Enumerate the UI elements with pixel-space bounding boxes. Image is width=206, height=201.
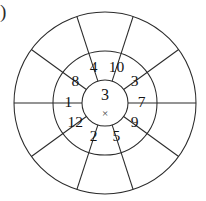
middle-ring-cell-3: 9 (131, 113, 139, 130)
multiplication-sign-icon: × (102, 107, 108, 119)
middle-ring-cell-0: 10 (109, 58, 125, 75)
middle-ring-cell-8: 8 (71, 72, 79, 89)
wheel-diagram: 10 3 7 9 5 2 12 1 8 4 3 × (0, 0, 206, 201)
wheel-spokes (14, 16, 196, 189)
middle-ring-cell-1: 3 (131, 72, 139, 89)
middle-ring-cell-6: 12 (68, 113, 84, 130)
middle-ring-cell-5: 2 (90, 127, 98, 144)
middle-ring-cell-2: 7 (138, 93, 146, 110)
middle-ring-cell-4: 5 (113, 127, 121, 144)
item-label-marker: ) (0, 2, 6, 21)
center-operand-value: 3 (101, 86, 109, 103)
multiplication-wheel-figure: ) 10 3 7 9 5 2 12 1 (0, 0, 206, 201)
middle-ring-cell-9: 4 (90, 58, 98, 75)
middle-ring-cell-7: 1 (64, 93, 72, 110)
